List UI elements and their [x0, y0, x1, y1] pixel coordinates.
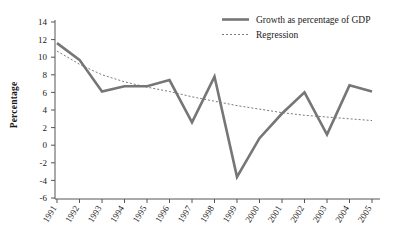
x-tick-label: 2002	[288, 204, 306, 225]
y-axis-ticks: 14121086420-2-4-6	[38, 17, 55, 203]
x-tick-label: 1999	[221, 203, 239, 224]
y-tick-label: 8	[43, 70, 48, 80]
x-axis-ticks: 1991199219931994199519961997199819992000…	[41, 199, 374, 224]
x-tick-label: 1998	[198, 203, 216, 224]
legend-label-regression: Regression	[256, 30, 298, 40]
y-tick-label: 4	[43, 105, 48, 115]
y-tick-label: 14	[38, 17, 48, 27]
x-tick-label: 1993	[86, 203, 104, 224]
legend-label-growth: Growth as percentage of GDP	[256, 15, 371, 25]
growth-series-line	[57, 43, 372, 177]
y-tick-label: 12	[38, 35, 47, 45]
chart-legend: Growth as percentage of GDP Regression	[222, 15, 371, 40]
y-tick-label: 10	[38, 52, 48, 62]
y-tick-label: 0	[43, 140, 48, 150]
y-tick-label: -4	[40, 176, 48, 186]
y-tick-label: 2	[43, 123, 48, 133]
x-tick-label: 1995	[131, 203, 149, 224]
x-tick-label: 2005	[356, 203, 374, 224]
x-tick-label: 1991	[41, 204, 59, 225]
regression-line	[57, 51, 372, 121]
x-tick-label: 1997	[176, 203, 194, 224]
x-tick-label: 2003	[311, 203, 329, 224]
x-tick-label: 2000	[243, 203, 261, 224]
x-tick-label: 1992	[63, 204, 81, 225]
chart-figure: Percentage 14121086420-2-4-6 19911992199…	[0, 0, 411, 242]
y-tick-label: 6	[43, 88, 48, 98]
x-tick-label: 2004	[333, 203, 351, 224]
x-tick-label: 1994	[108, 203, 126, 224]
y-tick-label: -6	[40, 193, 48, 203]
x-tick-label: 2001	[266, 204, 284, 225]
x-tick-label: 1996	[153, 203, 171, 224]
line-chart-plot: 14121086420-2-4-6 1991199219931994199519…	[0, 0, 411, 242]
y-tick-label: -2	[40, 158, 48, 168]
